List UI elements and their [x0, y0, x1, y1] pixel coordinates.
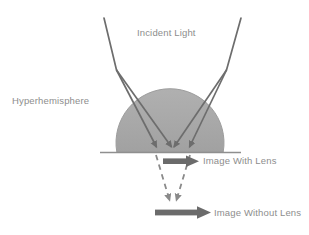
image-with-lens-arrow	[163, 156, 199, 167]
label-image-with-lens: Image With Lens	[203, 156, 277, 166]
label-image-without-lens: Image Without Lens	[214, 208, 301, 218]
label-hyperhemisphere: Hyperhemisphere	[12, 96, 89, 106]
label-incident-light: Incident Light	[137, 28, 196, 38]
image-without-lens-arrow	[155, 206, 211, 218]
incident-ray-left	[104, 18, 117, 70]
optics-diagram: Incident Light Hyperhemisphere Image Wit…	[0, 0, 309, 235]
incident-rays-group	[104, 18, 241, 70]
incident-ray-right	[227, 18, 242, 70]
